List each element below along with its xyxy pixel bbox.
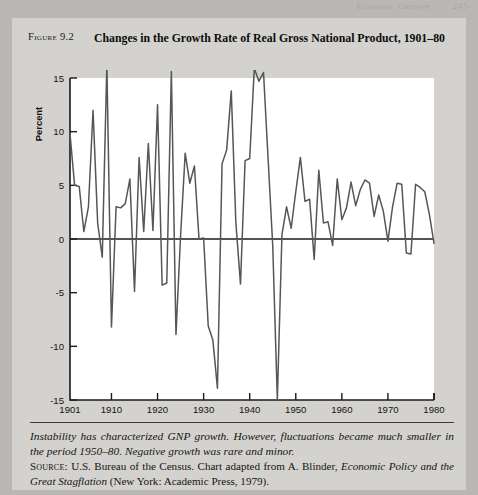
svg-text:5: 5	[59, 180, 64, 191]
svg-text:1920: 1920	[147, 404, 168, 415]
gnp-growth-line-chart: 151050-5-10-15 1901191019201930194019501…	[28, 70, 452, 420]
running-head-page-number: 245	[453, 1, 468, 11]
figure-source-text: Source: U.S. Bureau of the Census. Chart…	[30, 459, 454, 488]
figure-note-block: Instability has characterized GNP growth…	[30, 422, 454, 488]
figure-card: Figure 9.2Changes in the Growth Rate of …	[12, 18, 466, 490]
figure-label: Figure 9.2	[28, 31, 94, 42]
note-divider	[30, 422, 454, 423]
y-axis-label: Percent	[33, 107, 44, 141]
svg-text:1960: 1960	[331, 404, 352, 415]
svg-text:15: 15	[53, 73, 64, 84]
figure-title: Changes in the Growth Rate of Real Gross…	[94, 31, 446, 46]
svg-text:1910: 1910	[101, 404, 122, 415]
figure-note-text: Instability has characterized GNP growth…	[30, 429, 454, 458]
source-text-part2: (New York: Academic Press, 1979).	[107, 475, 269, 487]
svg-text:Percent: Percent	[33, 107, 44, 141]
svg-text:1950: 1950	[285, 404, 306, 415]
figure-title-block: Figure 9.2Changes in the Growth Rate of …	[28, 31, 456, 49]
svg-text:10: 10	[53, 126, 64, 137]
svg-text:-10: -10	[50, 341, 64, 352]
svg-text:1901: 1901	[59, 404, 80, 415]
svg-text:1980: 1980	[423, 404, 444, 415]
svg-text:1940: 1940	[239, 404, 260, 415]
running-head: Economic Growth 245	[0, 0, 478, 16]
svg-text:-5: -5	[55, 287, 64, 298]
running-head-title: Economic Growth	[356, 1, 430, 11]
svg-text:1970: 1970	[377, 404, 398, 415]
chart-plot-area: 151050-5-10-15 1901191019201930194019501…	[28, 70, 452, 420]
source-prefix: Source:	[30, 460, 68, 472]
svg-text:0: 0	[59, 234, 64, 245]
source-text-part1: U.S. Bureau of the Census. Chart adapted…	[68, 460, 341, 472]
svg-text:1930: 1930	[193, 404, 214, 415]
